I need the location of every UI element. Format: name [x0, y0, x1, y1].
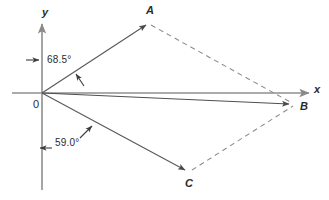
vector-diagram: y x 0 A B C 68.5° 59.0° — [0, 0, 329, 200]
angle-label-upper: 68.5° — [47, 55, 71, 65]
x-axis-label: x — [314, 84, 320, 95]
vector-OB — [42, 93, 289, 104]
angle-label-lower: 59.0° — [55, 138, 79, 148]
y-axis-label: y — [42, 7, 48, 18]
origin-label: 0 — [33, 99, 39, 110]
pointer-to-vector-OC-icon — [80, 126, 92, 138]
pointer-to-vector-OA-icon — [76, 74, 84, 86]
vector-OC — [42, 93, 185, 170]
point-label-c: C — [185, 178, 193, 189]
point-label-b: B — [300, 101, 308, 112]
point-label-a: A — [146, 5, 154, 16]
construction-line-A-to-B — [151, 25, 292, 103]
diagram-canvas — [0, 0, 329, 200]
construction-line-C-to-B — [192, 106, 293, 170]
